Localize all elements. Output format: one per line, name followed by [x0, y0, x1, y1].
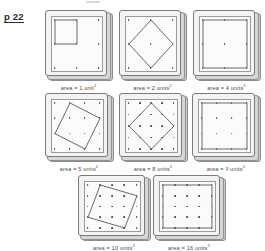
- geoboard: [153, 175, 226, 241]
- geoboard-face: [119, 10, 181, 76]
- area-value: 9: [225, 166, 228, 172]
- area-unit: units: [230, 166, 243, 172]
- area-caption: area = 9 units2: [207, 164, 245, 172]
- geoboard: [192, 93, 261, 162]
- area-exponent: 2: [243, 83, 245, 88]
- geoboard: [78, 175, 151, 241]
- area-exponent: 2: [96, 164, 98, 169]
- geoboard: [45, 10, 113, 81]
- geoboard-face: [153, 175, 220, 236]
- caption-prefix: area =: [134, 166, 153, 172]
- area-exponent: 2: [207, 243, 209, 248]
- area-caption: area = 4 units2: [207, 83, 246, 91]
- area-value: 10: [112, 245, 119, 251]
- area-value: 8: [152, 166, 155, 172]
- caption-prefix: area =: [168, 245, 187, 251]
- panel-area-5: area = 5 units2: [44, 93, 114, 172]
- square-outline: [120, 11, 182, 77]
- square-outline: [154, 176, 221, 237]
- panel-area-2: area = 2 units2: [118, 10, 187, 91]
- area-unit: units: [195, 245, 208, 251]
- geoboard-face: [45, 93, 108, 157]
- area-unit: unit: [84, 85, 94, 91]
- caption-prefix: area =: [93, 245, 112, 251]
- area-unit: units: [83, 166, 96, 172]
- area-unit: units: [157, 166, 170, 172]
- panel-area-4: area = 4 units2: [192, 10, 261, 91]
- panel-area-10: area = 10 units2: [77, 175, 151, 251]
- caption-prefix: area =: [61, 85, 80, 91]
- geoboard: [193, 10, 261, 81]
- panel-area-8: area = 8 units2: [118, 93, 188, 172]
- area-exponent: 2: [132, 243, 134, 248]
- area-unit: units: [157, 85, 170, 91]
- square-outline: [46, 94, 109, 158]
- area-value: 16: [187, 245, 194, 251]
- geoboard-face: [193, 10, 255, 76]
- area-exponent: 2: [169, 83, 171, 88]
- area-exponent: 2: [243, 164, 245, 169]
- area-caption: area = 1 unit2: [61, 83, 97, 91]
- panel-area-1: area = 1 unit2: [44, 10, 113, 91]
- area-caption: area = 5 units2: [60, 164, 99, 172]
- geoboard: [119, 10, 187, 81]
- panel-area-9: area = 9 units2: [191, 93, 261, 172]
- area-caption: area = 10 units2: [93, 243, 135, 251]
- square-outline: [193, 94, 256, 158]
- caption-prefix: area =: [207, 166, 226, 172]
- caption-prefix: area =: [60, 166, 79, 172]
- area-exponent: 2: [170, 164, 172, 169]
- panel-area-16: area = 16 units2: [152, 175, 226, 251]
- area-caption: area = 8 units2: [134, 164, 173, 172]
- square-outline: [120, 94, 183, 158]
- square-outline: [46, 11, 108, 77]
- area-value: 2: [152, 85, 155, 91]
- caption-prefix: area =: [207, 85, 226, 91]
- caption-prefix: area =: [133, 85, 152, 91]
- area-value: 1: [79, 85, 82, 91]
- area-caption: area = 2 units2: [133, 83, 172, 91]
- geoboard: [45, 93, 114, 162]
- area-value: 5: [78, 166, 81, 172]
- geoboard-face: [119, 93, 182, 157]
- area-unit: units: [231, 85, 244, 91]
- area-unit: units: [120, 245, 133, 251]
- geoboard-face: [45, 10, 107, 76]
- area-caption: area = 16 units2: [168, 243, 210, 251]
- area-value: 4: [226, 85, 229, 91]
- area-exponent: 2: [94, 83, 96, 88]
- square-outline: [79, 176, 146, 237]
- geoboard-face: [192, 93, 255, 157]
- square-outline: [194, 11, 256, 77]
- geoboard-face: [78, 175, 145, 236]
- geoboard: [119, 93, 188, 162]
